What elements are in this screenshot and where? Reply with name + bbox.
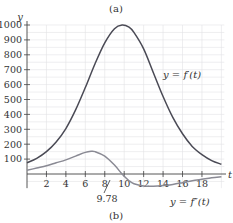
y-tick-label: 600 [4, 79, 22, 90]
y-tick-label: 800 [4, 49, 22, 60]
x-tick-label: 14 [157, 178, 169, 189]
x-tick-label: 12 [138, 178, 150, 189]
x-tick-label: 2 [43, 178, 49, 189]
y-tick-label: 900 [4, 34, 22, 45]
y-tick-label: 300 [4, 124, 22, 135]
caption-top: (a) [109, 3, 123, 14]
f-prime-label: y = f′(t) [162, 69, 201, 80]
x-axis-label: t [228, 169, 233, 180]
chart-root: 1002003004005006007008009001000246810121… [0, 0, 233, 223]
caption-bottom: (b) [109, 210, 123, 221]
f-double-prime-label: y = f″(t) [169, 196, 210, 207]
x-tick-label: 4 [63, 178, 69, 189]
y-tick-label: 400 [4, 109, 22, 120]
y-tick-label: 700 [4, 64, 22, 75]
y-tick-label: 500 [4, 94, 22, 105]
grid-lines [27, 25, 224, 188]
zero-annotation: 9.78 [96, 193, 117, 204]
y-tick-label: 100 [4, 153, 22, 164]
y-tick-label: 200 [4, 139, 22, 150]
y-axis-label: y [16, 11, 23, 22]
x-tick-label: 6 [82, 178, 88, 189]
